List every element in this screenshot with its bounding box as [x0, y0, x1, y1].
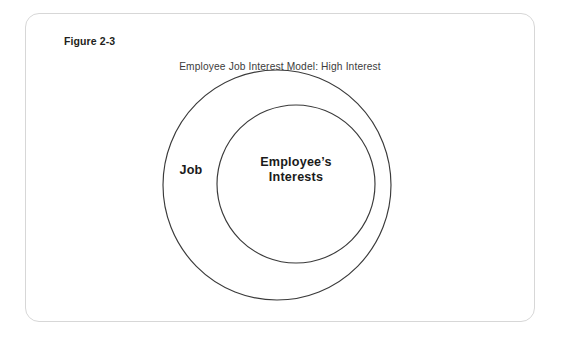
figure-screenshot: Figure 2-3 Employee Job Interest Model: … — [0, 0, 563, 337]
concentric-circle-diagram — [150, 60, 410, 320]
figure-number-label: Figure 2-3 — [64, 35, 115, 47]
circles-svg — [150, 60, 410, 320]
inner-circle-employees-interests — [217, 105, 375, 263]
